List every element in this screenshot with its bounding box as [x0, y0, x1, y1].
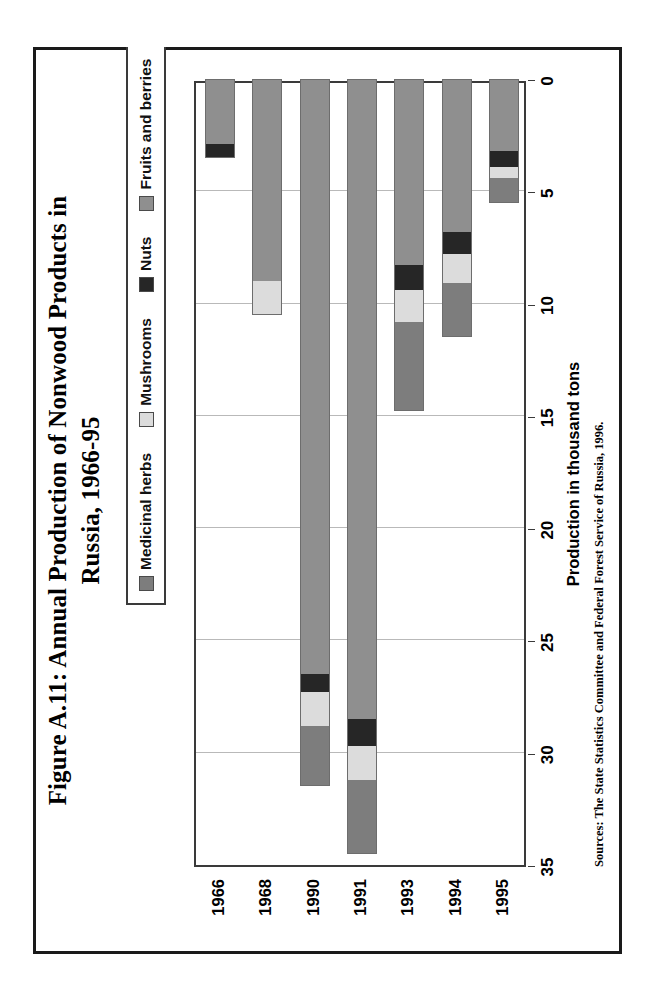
- category-label-1995: 1995: [493, 879, 512, 916]
- bar-1995: [489, 79, 519, 203]
- category-label-1990: 1990: [303, 879, 322, 916]
- plot-area: [194, 81, 526, 867]
- value-axis-tick: [528, 529, 535, 530]
- legend-swatch-icon: [139, 412, 154, 427]
- bar-1991: [347, 79, 377, 854]
- value-axis-tick-label: 35: [538, 858, 558, 877]
- bar-segment: [394, 322, 424, 412]
- value-axis-tick-label: 0: [538, 76, 558, 85]
- bar-segment: [300, 726, 330, 787]
- bar-segment: [347, 746, 377, 780]
- value-axis-tick: [528, 192, 535, 193]
- title-line-1: Figure A.11: Annual Production of Nonwoo…: [44, 196, 71, 806]
- category-label-1966: 1966: [208, 879, 227, 916]
- bar-segment: [347, 79, 377, 719]
- legend-item-label: Nuts: [137, 237, 155, 271]
- legend-item-label: Medicinal herbs: [137, 453, 155, 570]
- bar-segment: [442, 79, 472, 232]
- bar-segment: [347, 780, 377, 854]
- bar-1994: [442, 79, 472, 337]
- bar-segment: [300, 79, 330, 674]
- category-label-1993: 1993: [398, 879, 417, 916]
- legend-item: Medicinal herbs: [137, 453, 155, 591]
- bar-1968: [252, 79, 282, 315]
- bar-segment: [442, 283, 472, 337]
- value-axis-title: Production in thousand tons: [564, 81, 583, 867]
- legend-swatch-icon: [139, 277, 154, 292]
- bar-segment: [300, 674, 330, 692]
- bar-segment: [489, 151, 519, 167]
- bar-segment: [205, 144, 235, 157]
- legend-item: Mushrooms: [137, 318, 155, 427]
- bar-segment: [442, 254, 472, 283]
- bar-segment: [394, 290, 424, 321]
- value-axis-tick-label: 25: [538, 633, 558, 652]
- bar-segment: [489, 79, 519, 151]
- rotated-figure-wrapper: Figure A.11: Annual Production of Nonwoo…: [33, 47, 622, 954]
- value-axis: 35302520151050: [528, 81, 562, 867]
- value-axis-tick-label: 30: [538, 745, 558, 764]
- legend-item: Fruits and berries: [137, 59, 155, 211]
- legend-item-label: Fruits and berries: [137, 59, 155, 190]
- bar-segment: [252, 281, 282, 315]
- legend-swatch-icon: [139, 576, 154, 591]
- legend-item-label: Mushrooms: [137, 318, 155, 406]
- category-axis: 1966196819901991199319941995: [194, 871, 526, 951]
- value-axis-tick: [528, 754, 535, 755]
- bar-segment: [394, 265, 424, 290]
- bar-1966: [205, 79, 235, 158]
- legend-swatch-icon: [139, 196, 154, 211]
- value-axis-tick-label: 10: [538, 296, 558, 315]
- bar-segment: [252, 79, 282, 281]
- page-title: Figure A.11: Annual Production of Nonwoo…: [42, 50, 107, 951]
- value-axis-tick-label: 20: [538, 521, 558, 540]
- bar-1993: [394, 79, 424, 411]
- category-label-1991: 1991: [351, 879, 370, 916]
- value-axis-tick: [528, 305, 535, 306]
- plot-inner: [196, 83, 524, 865]
- category-label-1968: 1968: [256, 879, 275, 916]
- value-axis-tick: [528, 417, 535, 418]
- value-axis-tick: [528, 641, 535, 642]
- source-note: Sources: The State Statistics Committee …: [592, 67, 607, 867]
- figure-page: Figure A.11: Annual Production of Nonwoo…: [0, 0, 663, 1002]
- bar-segment: [205, 79, 235, 144]
- value-axis-tick-label: 5: [538, 189, 558, 198]
- category-label-1994: 1994: [445, 879, 464, 916]
- bar-segment: [489, 178, 519, 203]
- bar-segment: [347, 719, 377, 746]
- figure-stage: Figure A.11: Annual Production of Nonwoo…: [36, 50, 619, 951]
- bar-segment: [300, 692, 330, 726]
- bar-segment: [489, 167, 519, 178]
- legend-item: Nuts: [137, 237, 155, 292]
- chart-legend: Medicinal herbsMushroomsNutsFruits and b…: [126, 47, 166, 605]
- bar-segment: [394, 79, 424, 265]
- value-axis-tick: [528, 80, 535, 81]
- bar-segment: [442, 232, 472, 254]
- value-axis-tick-label: 15: [538, 408, 558, 427]
- bar-1990: [300, 79, 330, 786]
- value-axis-tick: [528, 866, 535, 867]
- title-line-2: Russia, 1966-95: [75, 50, 108, 951]
